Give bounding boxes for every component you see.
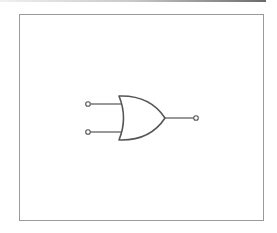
- or-gate-body: [119, 96, 165, 140]
- output-terminal: [194, 116, 199, 121]
- input-terminal-b: [86, 130, 91, 135]
- or-gate-diagram: [0, 0, 277, 233]
- input-terminal-a: [86, 102, 91, 107]
